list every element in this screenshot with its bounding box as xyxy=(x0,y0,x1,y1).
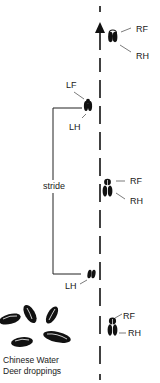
dropping xyxy=(21,303,40,325)
hoofprint-pair-3 xyxy=(108,318,118,336)
arrow-up-icon xyxy=(95,22,105,33)
label-lh-2: LH xyxy=(65,281,77,291)
stride-bracket xyxy=(53,108,82,274)
stride-label: stride xyxy=(43,181,65,191)
label-rh-1: RH xyxy=(136,51,149,61)
label-rf-1: RF xyxy=(136,24,148,34)
dropping xyxy=(42,329,72,345)
hoofprint-left-2 xyxy=(87,269,96,278)
label-lh-1: LH xyxy=(69,122,81,132)
hoofprint-pair-1 xyxy=(108,30,117,42)
hoofprint-left-1 xyxy=(84,99,92,111)
hoofprint-pair-2 xyxy=(103,179,113,197)
droppings-illustration xyxy=(0,303,72,348)
label-rf-2: RF xyxy=(130,176,142,186)
dropping xyxy=(0,311,22,326)
dropping xyxy=(11,336,34,348)
label-rf-3: RF xyxy=(123,311,135,321)
caption-line-2: Deer droppings xyxy=(3,366,61,377)
label-lf: LF xyxy=(66,80,77,90)
droppings-caption: Chinese Water Deer droppings xyxy=(3,355,61,377)
caption-line-1: Chinese Water xyxy=(3,355,61,366)
label-rh-2: RH xyxy=(130,196,143,206)
label-rh-3: RH xyxy=(128,328,141,338)
dropping xyxy=(43,305,60,326)
